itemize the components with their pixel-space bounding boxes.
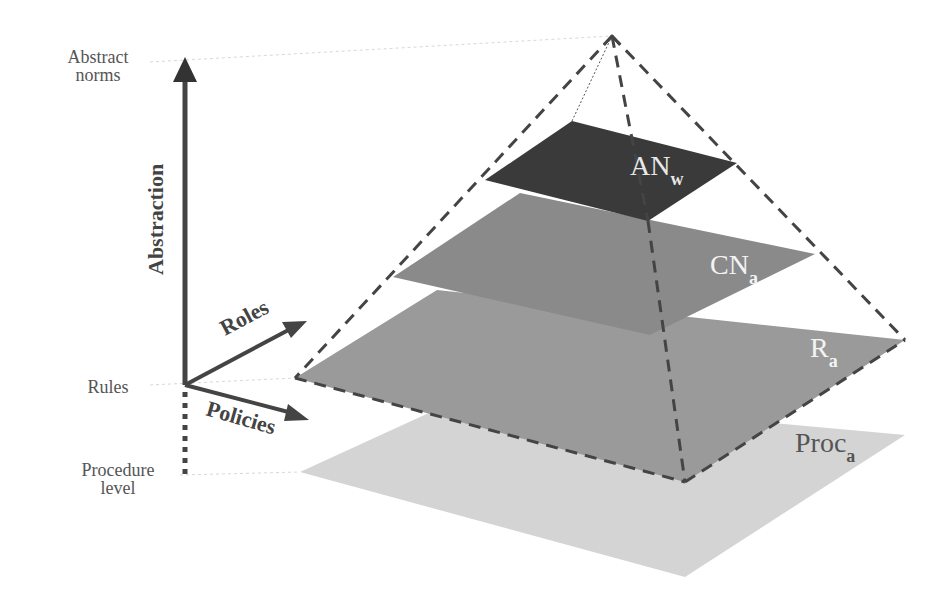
roles-axis — [185, 326, 296, 385]
policies-arrow-icon — [284, 404, 309, 421]
roles-label: Roles — [216, 294, 273, 340]
abstraction-label: Abstraction — [143, 164, 168, 275]
policies-label: Policies — [204, 396, 279, 440]
abstract-norms-label-line1: Abstract — [68, 47, 129, 67]
pyramid-back-edge — [572, 36, 612, 121]
procedure-level-label-line1: Procedure — [82, 460, 155, 480]
procedure-level-label-line2: level — [101, 478, 136, 498]
abstract-norms-label-line2: norms — [76, 65, 121, 85]
pyramid-diagram: Abstraction Roles Policies Abstract norm… — [0, 0, 949, 614]
rules-label: Rules — [87, 377, 128, 397]
